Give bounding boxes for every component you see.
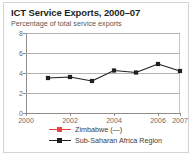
legend-swatch-zimbabwe bbox=[49, 125, 71, 134]
chart-title: ICT Service Exports, 2000–07 bbox=[11, 7, 140, 18]
series-plot bbox=[26, 33, 180, 113]
legend-item-zimbabwe[interactable]: Zimbabwe (—) bbox=[11, 124, 181, 135]
x-tick-mark bbox=[180, 113, 181, 116]
legend-swatch-sub-saharan-africa-region bbox=[49, 136, 71, 145]
x-tick-mark bbox=[114, 113, 115, 116]
x-tick-label: 2004 bbox=[106, 117, 122, 124]
x-axis-line bbox=[26, 113, 180, 114]
x-tick-label: 2002 bbox=[62, 117, 78, 124]
data-point-marker bbox=[134, 70, 138, 74]
x-tick-mark bbox=[70, 113, 71, 116]
legend-marker bbox=[57, 127, 62, 132]
legend-marker bbox=[57, 138, 62, 143]
data-point-marker bbox=[178, 69, 182, 73]
data-point-marker bbox=[90, 79, 94, 83]
legend-label-zimbabwe: Zimbabwe (—) bbox=[75, 125, 122, 134]
data-point-marker bbox=[112, 68, 116, 72]
chart-legend: Zimbabwe (—) Sub-Saharan Africa Region bbox=[11, 124, 181, 146]
data-point-marker bbox=[156, 62, 160, 66]
x-tick-mark bbox=[26, 113, 27, 116]
x-tick-label: 2006 bbox=[150, 117, 166, 124]
data-point-marker bbox=[68, 75, 72, 79]
plot-area: 02468 20002002200420062007 bbox=[26, 33, 180, 113]
legend-label-sub-saharan-africa-region: Sub-Saharan Africa Region bbox=[75, 136, 162, 145]
x-tick-label: 2007 bbox=[172, 117, 188, 124]
chart-subtitle: Percentage of total service exports bbox=[11, 19, 122, 28]
x-tick-mark bbox=[158, 113, 159, 116]
chart-figure: ICT Service Exports, 2000–07 Percentage … bbox=[0, 0, 192, 159]
legend-item-sub-saharan-africa-region[interactable]: Sub-Saharan Africa Region bbox=[11, 135, 181, 146]
x-tick-label: 2000 bbox=[18, 117, 34, 124]
data-point-marker bbox=[46, 76, 50, 80]
